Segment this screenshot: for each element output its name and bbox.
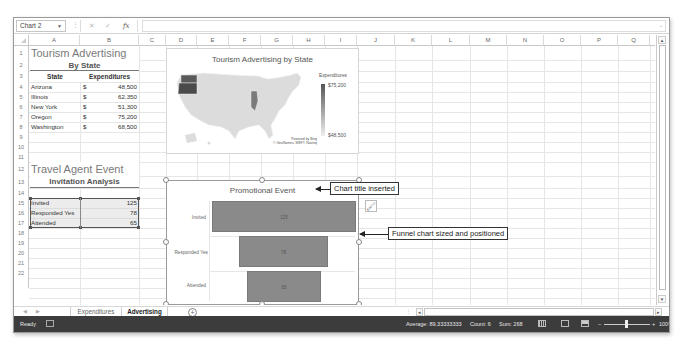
event-label-cell[interactable]: Responded Yes — [31, 208, 74, 218]
range-handle[interactable] — [137, 226, 140, 229]
column-header-j[interactable]: J — [357, 35, 395, 46]
event-value-cell[interactable]: 125 — [104, 198, 137, 208]
amount-cell[interactable]: 62,350 — [104, 92, 137, 102]
state-cell[interactable]: Washington — [31, 122, 63, 132]
column-header-g[interactable]: G — [261, 35, 293, 46]
row-header-11[interactable]: 11 — [14, 152, 29, 162]
column-header-f[interactable]: F — [229, 35, 261, 46]
row-header-10[interactable]: 10 — [14, 142, 29, 152]
column-header-c[interactable]: C — [139, 35, 166, 46]
amount-cell[interactable]: 51,300 — [104, 102, 137, 112]
chart-styles-brush-icon[interactable]: 🖌 — [365, 200, 377, 212]
column-header-n[interactable]: N — [507, 35, 544, 46]
row-header-5[interactable]: 5 — [14, 92, 29, 102]
row-header-18[interactable]: 18 — [14, 228, 29, 238]
row-header-8[interactable]: 8 — [14, 122, 29, 132]
page-layout-view-icon[interactable] — [561, 320, 569, 327]
enter-icon[interactable]: ✓ — [105, 20, 111, 32]
column-header-a[interactable]: A — [29, 35, 80, 46]
column-header-b[interactable]: B — [80, 35, 139, 46]
resize-handle[interactable] — [356, 301, 362, 305]
state-cell[interactable]: New York — [31, 102, 57, 112]
zoom-out-button[interactable]: − — [598, 316, 601, 332]
resize-handle[interactable] — [163, 239, 169, 245]
prev-sheet-icon[interactable]: ◀ — [23, 308, 27, 314]
resize-handle[interactable] — [356, 239, 362, 245]
zoom-level[interactable]: 100% — [659, 316, 670, 332]
cancel-icon[interactable]: ✕ — [89, 20, 95, 32]
row-header-17[interactable]: 17 — [14, 218, 29, 228]
funnel-bar-invited[interactable]: 125 — [212, 201, 356, 232]
row-header-12[interactable]: 12 — [14, 162, 29, 176]
scroll-thumb[interactable] — [659, 45, 666, 290]
formula-input[interactable]: ⌄ — [142, 20, 666, 32]
expand-formula-icon[interactable]: ⌄ — [659, 22, 663, 28]
funnel-chart[interactable]: Promotional Event Invited Responded Yes … — [166, 180, 359, 305]
map-chart[interactable]: Tourism Advertising by State Expenditure… — [166, 48, 359, 154]
horizontal-scrollbar[interactable] — [424, 308, 654, 316]
vertical-scrollbar[interactable]: ▲ ▼ — [656, 35, 668, 305]
event-value-cell[interactable]: 78 — [104, 208, 137, 218]
event-value-cell[interactable]: 65 — [104, 218, 137, 228]
row-header-6[interactable]: 6 — [14, 102, 29, 112]
zoom-in-button[interactable]: + — [652, 316, 655, 332]
zoom-slider-thumb[interactable] — [625, 320, 628, 328]
column-header-k[interactable]: K — [395, 35, 432, 46]
chevron-down-icon[interactable]: ▼ — [57, 21, 62, 31]
row-header-4[interactable]: 4 — [14, 82, 29, 92]
state-cell[interactable]: Illinois — [31, 92, 48, 102]
column-header-e[interactable]: E — [197, 35, 229, 46]
amount-cell[interactable]: 68,500 — [104, 122, 137, 132]
row-header-21[interactable]: 21 — [14, 258, 29, 268]
row-header-16[interactable]: 16 — [14, 208, 29, 218]
range-handle[interactable] — [137, 197, 140, 200]
column-header-r[interactable]: R — [650, 35, 655, 46]
splitter-icon[interactable]: ⋮ — [406, 308, 411, 314]
status-count[interactable]: Count: 6 — [470, 316, 491, 332]
column-header-d[interactable]: D — [166, 35, 197, 46]
worksheet-grid[interactable]: A B C D E F G H I J K L M N O P Q R — [14, 35, 655, 305]
event-label-cell[interactable]: Invited — [31, 198, 49, 208]
resize-handle[interactable] — [259, 301, 265, 305]
macro-record-icon[interactable] — [46, 320, 54, 327]
amount-cell[interactable]: 48,500 — [104, 82, 137, 92]
scroll-left-icon[interactable]: ◂ — [416, 308, 423, 316]
select-all-button[interactable] — [14, 35, 29, 46]
row-header-13[interactable]: 13 — [14, 176, 29, 188]
name-box[interactable]: Chart 2 ▼ — [16, 20, 66, 32]
resize-handle[interactable] — [259, 177, 265, 183]
status-average[interactable]: Average: 89.33333333 — [406, 316, 462, 332]
column-header-h[interactable]: H — [293, 35, 325, 46]
status-sum[interactable]: Sum: 268 — [499, 316, 523, 332]
state-cell[interactable]: Oregon — [31, 112, 52, 122]
resize-handle[interactable] — [163, 177, 169, 183]
column-header-q[interactable]: Q — [618, 35, 650, 46]
row-header-7[interactable]: 7 — [14, 112, 29, 122]
amount-cell[interactable]: 75,200 — [104, 112, 137, 122]
page-break-view-icon[interactable] — [581, 320, 589, 327]
column-header-l[interactable]: L — [432, 35, 470, 46]
row-header-20[interactable]: 20 — [14, 248, 29, 258]
column-header-p[interactable]: P — [581, 35, 618, 46]
funnel-bar-responded[interactable]: 78 — [239, 236, 328, 267]
row-header-22[interactable]: 22 — [14, 268, 29, 278]
row-header-2[interactable]: 2 — [14, 60, 29, 71]
row-header-15[interactable]: 15 — [14, 198, 29, 208]
row-header-1[interactable]: 1 — [14, 46, 29, 60]
row-header-14[interactable]: 14 — [14, 188, 29, 198]
row-header-23[interactable] — [14, 278, 29, 288]
next-sheet-icon[interactable]: ▶ — [36, 308, 40, 314]
scroll-right-icon[interactable]: ▸ — [655, 308, 662, 316]
resize-handle[interactable] — [163, 301, 169, 305]
funnel-bar-attended[interactable]: 65 — [247, 271, 321, 302]
scroll-up-icon[interactable]: ▲ — [658, 36, 666, 44]
column-header-i[interactable]: I — [325, 35, 357, 46]
column-header-o[interactable]: O — [544, 35, 581, 46]
row-header-3[interactable]: 3 — [14, 71, 29, 82]
insert-function-icon[interactable]: fx — [123, 20, 130, 32]
normal-view-icon[interactable] — [538, 320, 546, 327]
column-header-m[interactable]: M — [470, 35, 507, 46]
scroll-down-icon[interactable]: ▼ — [658, 295, 666, 303]
state-cell[interactable]: Arizona — [31, 82, 52, 92]
row-header-19[interactable]: 19 — [14, 238, 29, 248]
